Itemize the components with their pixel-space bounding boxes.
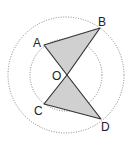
outer-circle xyxy=(8,17,124,133)
geometry-diagram: A B O C D xyxy=(0,0,133,144)
triangle-AOB xyxy=(44,28,100,75)
label-C: C xyxy=(34,104,43,118)
label-D: D xyxy=(101,120,110,134)
label-B: B xyxy=(98,15,106,29)
label-A: A xyxy=(33,36,41,50)
label-O: O xyxy=(52,69,61,83)
